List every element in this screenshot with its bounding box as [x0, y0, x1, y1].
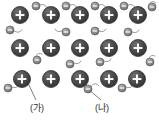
- free-electron: [96, 58, 104, 66]
- metal-cation: [43, 7, 60, 24]
- metal-cation: [14, 71, 31, 88]
- metallic-lattice-figure: (가) (나): [0, 0, 159, 121]
- free-electron: [120, 2, 128, 10]
- free-electron: [4, 84, 12, 92]
- free-electron: [148, 3, 156, 11]
- metal-cation: [12, 7, 29, 24]
- electron-motion-trail: [92, 84, 99, 86]
- free-electron: [6, 26, 14, 34]
- free-electron: [118, 84, 126, 92]
- electron-motion-trail: [55, 29, 62, 32]
- metal-cation: [129, 71, 146, 88]
- metal-cation: [130, 7, 147, 24]
- free-electron: [32, 2, 40, 10]
- free-electron: [66, 60, 74, 68]
- free-electron: [124, 28, 132, 36]
- electron-motion-trail: [40, 4, 47, 8]
- electron-motion-trail: [132, 30, 139, 33]
- metal-cation: [72, 7, 89, 24]
- label-ga: (가): [30, 104, 44, 113]
- electron-motion-trail: [104, 59, 111, 62]
- metal-cation: [43, 71, 60, 88]
- electron-motion-trail: [36, 53, 42, 56]
- lattice-canvas: [0, 0, 159, 121]
- metal-cation: [72, 71, 89, 88]
- metal-cation: [130, 40, 147, 57]
- free-electron: [84, 85, 92, 93]
- metal-cation: [72, 40, 89, 57]
- label-na: (나): [95, 104, 109, 113]
- metal-cation: [43, 40, 60, 57]
- free-electron: [33, 56, 41, 64]
- electron-motion-trail: [149, 55, 155, 58]
- free-electron: [62, 2, 70, 10]
- free-electron: [62, 28, 70, 36]
- free-electron: [91, 2, 99, 10]
- electron-motion-trail: [74, 61, 81, 64]
- metal-cations-group: [12, 7, 147, 88]
- electron-motion-trail: [14, 30, 22, 32]
- free-electron: [146, 58, 154, 66]
- metal-cation: [101, 71, 118, 88]
- free-electron: [91, 27, 99, 35]
- metal-cation: [101, 7, 118, 24]
- electron-motion-trail: [99, 29, 106, 32]
- metal-cation: [12, 40, 29, 57]
- metal-cation: [101, 40, 118, 57]
